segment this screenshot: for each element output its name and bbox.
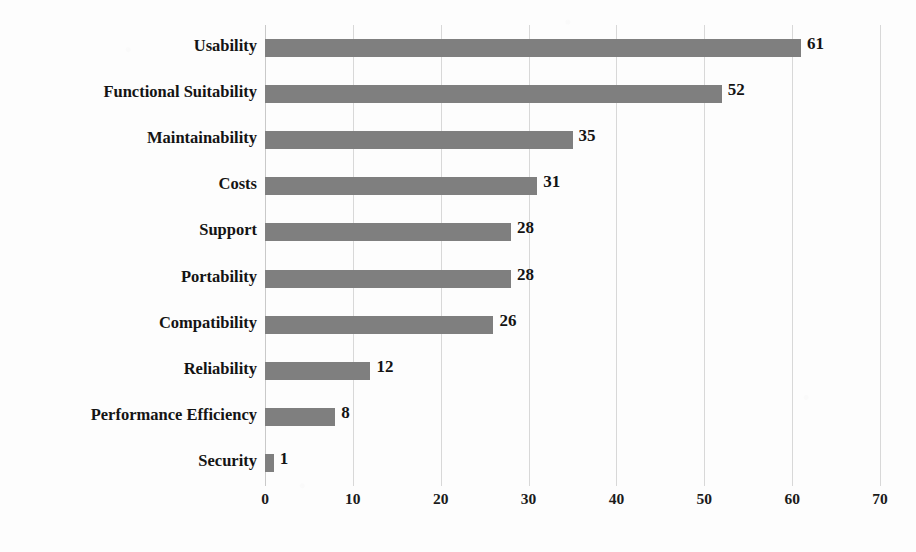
- category-label: Compatibility: [159, 312, 257, 334]
- x-tick-label: 30: [521, 489, 537, 509]
- x-axis-tick-labels: 010203040506070: [265, 489, 880, 519]
- bar: [265, 131, 573, 149]
- bar-row: Compatibility26: [265, 302, 880, 348]
- category-label-wrapper: Costs: [0, 163, 265, 209]
- category-label: Functional Suitability: [103, 81, 257, 103]
- bar-row: Reliability12: [265, 348, 880, 394]
- x-tick-label: 20: [433, 489, 449, 509]
- bar-value-label: 28: [517, 218, 534, 238]
- bar-value-label: 1: [280, 449, 289, 469]
- bar-value-label: 31: [543, 172, 560, 192]
- category-label: Security: [198, 450, 257, 472]
- bar-chart: Usability61Functional Suitability52Maint…: [0, 0, 916, 552]
- category-label: Costs: [218, 173, 257, 195]
- bar: [265, 316, 493, 334]
- bar-value-label: 28: [517, 265, 534, 285]
- bar-value-label: 52: [728, 80, 745, 100]
- category-label-wrapper: Portability: [0, 256, 265, 302]
- bar: [265, 454, 274, 472]
- x-tick-label: 10: [345, 489, 361, 509]
- bar-value-label: 12: [376, 357, 393, 377]
- bar: [265, 270, 511, 288]
- category-label: Portability: [181, 266, 257, 288]
- bar-row: Performance Efficiency8: [265, 394, 880, 440]
- category-label-wrapper: Compatibility: [0, 302, 265, 348]
- bar-row: Usability61: [265, 25, 880, 71]
- category-label: Support: [199, 219, 257, 241]
- category-label: Maintainability: [147, 127, 257, 149]
- category-label-wrapper: Support: [0, 209, 265, 255]
- bar: [265, 408, 335, 426]
- bar-value-label: 35: [579, 126, 596, 146]
- bar-row: Costs31: [265, 163, 880, 209]
- bar: [265, 223, 511, 241]
- bar-value-label: 61: [807, 34, 824, 54]
- category-label-wrapper: Performance Efficiency: [0, 394, 265, 440]
- bar-row: Portability28: [265, 256, 880, 302]
- category-label-wrapper: Security: [0, 440, 265, 486]
- bar-row: Maintainability35: [265, 117, 880, 163]
- bar-value-label: 8: [341, 403, 350, 423]
- bar-row: Functional Suitability52: [265, 71, 880, 117]
- x-tick-label: 70: [872, 489, 888, 509]
- bar: [265, 177, 537, 195]
- bar: [265, 85, 722, 103]
- x-tick-label: 40: [609, 489, 625, 509]
- category-label-wrapper: Maintainability: [0, 117, 265, 163]
- category-label-wrapper: Reliability: [0, 348, 265, 394]
- bar-value-label: 26: [499, 311, 516, 331]
- bar-rows: Usability61Functional Suitability52Maint…: [265, 25, 880, 486]
- plot-area: Usability61Functional Suitability52Maint…: [265, 25, 880, 486]
- category-label: Usability: [194, 35, 257, 57]
- bar: [265, 362, 370, 380]
- x-tick-label: 0: [261, 489, 269, 509]
- bar-row: Security1: [265, 440, 880, 486]
- x-tick-label: 50: [697, 489, 713, 509]
- category-label-wrapper: Functional Suitability: [0, 71, 265, 117]
- x-tick-label: 60: [784, 489, 800, 509]
- bar-row: Support28: [265, 209, 880, 255]
- category-label: Performance Efficiency: [91, 404, 257, 426]
- category-label-wrapper: Usability: [0, 25, 265, 71]
- gridline-70: [880, 25, 881, 486]
- category-label: Reliability: [184, 358, 257, 380]
- bar: [265, 39, 801, 57]
